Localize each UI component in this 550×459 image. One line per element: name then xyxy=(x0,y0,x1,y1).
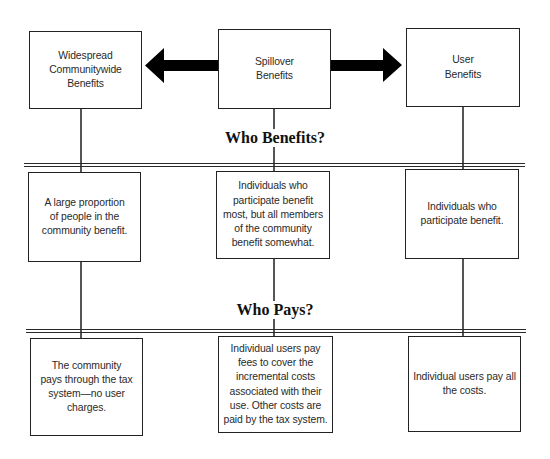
category-box-spillover: Spillover Benefits xyxy=(218,29,331,109)
text-line: of people in the xyxy=(42,210,127,224)
benefits-text: A large proportion of people in the comm… xyxy=(42,196,127,239)
text-line: charges. xyxy=(40,401,132,415)
text-line: incremental costs xyxy=(224,370,328,384)
benefits-box-user: Individuals who participate benefit. xyxy=(405,169,519,259)
text-line: The community xyxy=(40,359,132,373)
arrow-right-icon xyxy=(330,48,402,82)
text-line: associated with their xyxy=(224,385,328,399)
text-line: Individual users pay xyxy=(224,342,328,356)
text-line: Communitywide xyxy=(49,63,122,77)
text-line: Spillover xyxy=(255,55,294,69)
heading-who-benefits: Who Benefits? xyxy=(224,129,326,147)
category-box-communitywide: Widespread Communitywide Benefits xyxy=(29,31,142,109)
benefits-text: Individuals who participate benefit most… xyxy=(223,179,323,250)
text-line: fees to cover the xyxy=(224,356,328,370)
text-line: the costs. xyxy=(413,384,516,398)
text-line: User xyxy=(445,53,482,67)
text-line: of the community xyxy=(223,222,323,236)
text-line: system—no user xyxy=(40,387,132,401)
text-line: use. Other costs are xyxy=(224,399,328,413)
pays-text: Individual users pay fees to cover the i… xyxy=(224,342,328,427)
text-line: Benefits xyxy=(445,68,482,82)
arrow-left-icon xyxy=(145,48,218,83)
text-line: Benefits xyxy=(49,77,122,91)
benefits-box-communitywide: A large proportion of people in the comm… xyxy=(28,172,141,262)
text-line: A large proportion xyxy=(42,196,127,210)
text-line: Individual users pay all xyxy=(413,370,516,384)
heading-who-pays: Who Pays? xyxy=(236,301,315,319)
pays-box-communitywide: The community pays through the tax syste… xyxy=(30,338,143,436)
pays-box-spillover: Individual users pay fees to cover the i… xyxy=(218,336,333,433)
benefits-box-spillover: Individuals who participate benefit most… xyxy=(216,171,330,259)
text-line: most, but all members xyxy=(223,208,323,222)
text-line: Individuals who xyxy=(223,179,323,193)
pays-text: Individual users pay all the costs. xyxy=(413,370,516,398)
pays-box-user: Individual users pay all the costs. xyxy=(408,336,521,432)
text-line: Benefits xyxy=(255,69,294,83)
text-line: paid by the tax system. xyxy=(224,413,328,427)
text-line: Individuals who xyxy=(421,200,504,214)
category-box-user: User Benefits xyxy=(406,28,520,107)
category-label: User Benefits xyxy=(445,53,482,81)
text-line: participate benefit xyxy=(223,194,323,208)
text-line: participate benefit. xyxy=(421,214,504,228)
text-line: Widespread xyxy=(49,49,122,63)
category-label: Widespread Communitywide Benefits xyxy=(49,49,122,92)
text-line: community benefit. xyxy=(42,224,127,238)
pays-text: The community pays through the tax syste… xyxy=(40,359,132,416)
category-label: Spillover Benefits xyxy=(255,55,294,83)
benefits-text: Individuals who participate benefit. xyxy=(421,200,504,228)
text-line: benefit somewhat. xyxy=(223,236,323,250)
text-line: pays through the tax xyxy=(40,373,132,387)
